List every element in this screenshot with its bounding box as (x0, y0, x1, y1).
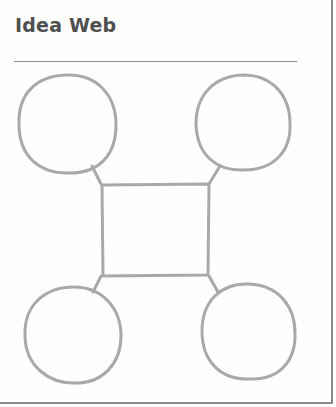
connector-bottom-right (209, 276, 218, 292)
circle-top-left[interactable] (19, 75, 116, 173)
circle-bottom-right[interactable] (202, 284, 295, 379)
center-square[interactable] (102, 184, 209, 276)
worksheet-page: Idea Web (0, 0, 333, 404)
circle-top-right[interactable] (196, 75, 290, 170)
idea-web-diagram (0, 0, 336, 407)
circle-bottom-left[interactable] (25, 287, 121, 383)
connector-top-right (209, 166, 220, 184)
